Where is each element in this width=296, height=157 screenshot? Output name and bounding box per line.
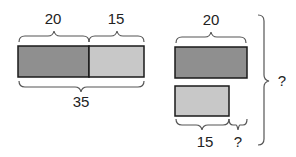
- bar-model-diagram: 20 15 35 20 15 ? ?: [0, 0, 296, 157]
- brace-top-20-right: [176, 32, 246, 43]
- segment-15: [89, 46, 144, 77]
- bar-15: [175, 86, 229, 116]
- brace-bottom-35: [19, 81, 144, 92]
- label-total-unknown: ?: [278, 72, 286, 89]
- left-model: 20 15 35: [18, 10, 144, 110]
- label-20-right: 20: [203, 11, 220, 28]
- label-15-right: 15: [197, 133, 214, 150]
- brace-top-20: [19, 31, 89, 42]
- brace-bottom-15: [176, 119, 229, 130]
- brace-side-total: [258, 15, 269, 145]
- brace-bottom-diff: [229, 119, 247, 130]
- label-15-left: 15: [108, 10, 125, 27]
- label-difference-unknown: ?: [234, 133, 242, 150]
- segment-20: [18, 46, 89, 77]
- bar-20: [175, 47, 247, 78]
- label-35: 35: [73, 93, 90, 110]
- right-model: 20 15 ? ?: [175, 11, 286, 150]
- brace-top-15: [89, 31, 144, 42]
- label-20-left: 20: [45, 10, 62, 27]
